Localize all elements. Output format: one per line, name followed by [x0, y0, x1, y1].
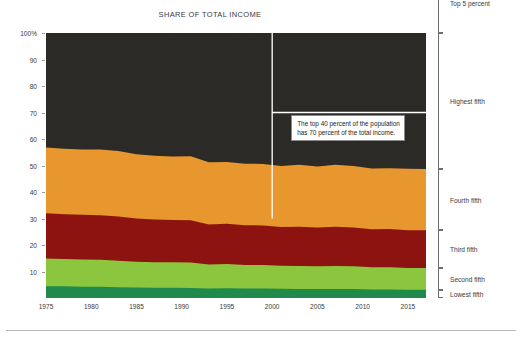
y-axis-tick-mark	[42, 113, 45, 114]
y-axis-tick-mark	[42, 86, 45, 87]
legend-bracket	[438, 0, 443, 33]
y-axis-tick-label: 50	[30, 162, 37, 169]
legend-label-fourth-fifth: Fourth fifth	[450, 196, 482, 203]
y-axis-tick-mark	[42, 272, 45, 273]
x-axis-tick-label: 2015	[401, 303, 416, 310]
callout-line-2: has 70 percent of the total income.	[297, 128, 400, 137]
y-axis-tick-label: 60	[30, 136, 37, 143]
y-axis: 100%908070605040302010	[0, 27, 42, 307]
legend-label-second-fifth: Second fifth	[450, 275, 485, 282]
chart-title: SHARE OF TOTAL INCOME	[0, 10, 420, 19]
x-axis-tick-label: 1975	[39, 303, 54, 310]
footer-divider	[6, 330, 516, 331]
y-axis-tick-label: 100%	[20, 30, 37, 37]
x-axis-tick-label: 1980	[84, 303, 99, 310]
x-axis-tick-label: 1985	[129, 303, 144, 310]
y-axis-tick-mark	[42, 33, 45, 34]
y-axis-tick-label: 70	[30, 109, 37, 116]
x-axis-tick-label: 1995	[220, 303, 235, 310]
x-axis-tick-label: 1990	[174, 303, 189, 310]
y-axis-tick-mark	[42, 166, 45, 167]
legend-bracket	[438, 268, 443, 290]
y-axis-tick-mark	[42, 192, 45, 193]
top-40-callout: The top 40 percent of the population has…	[291, 115, 405, 142]
legend-label-top-5-percent: Top 5 percent	[450, 0, 490, 7]
legend: Lowest fifthSecond fifthThird fifthFourt…	[432, 30, 522, 305]
legend-bracket	[438, 169, 443, 230]
legend-bracket	[438, 33, 443, 169]
x-axis-tick-label: 2005	[310, 303, 325, 310]
y-axis-tick-mark	[42, 60, 45, 61]
y-axis-tick-label: 40	[30, 189, 37, 196]
legend-label-highest-fifth: Highest fifth	[450, 97, 485, 104]
y-axis-tick-label: 30	[30, 215, 37, 222]
y-axis-tick-mark	[42, 139, 45, 140]
y-axis-tick-label: 20	[30, 242, 37, 249]
callout-line-1: The top 40 percent of the population	[297, 119, 400, 128]
legend-label-third-fifth: Third fifth	[450, 246, 477, 253]
x-axis-tick-label: 2000	[265, 303, 280, 310]
legend-bracket	[438, 290, 443, 298]
y-axis-tick-mark	[42, 219, 45, 220]
y-axis-tick-label: 90	[30, 56, 37, 63]
plot-area	[46, 33, 426, 298]
stacked-area-svg	[46, 33, 426, 298]
y-axis-tick-label: 80	[30, 83, 37, 90]
x-axis-tick-label: 2010	[355, 303, 370, 310]
x-axis: 197519801985199019952000200520102015	[0, 303, 522, 319]
y-axis-tick-mark	[42, 245, 45, 246]
legend-bracket	[438, 230, 443, 268]
income-share-chart: SHARE OF TOTAL INCOME 100%90807060504030…	[0, 0, 522, 345]
legend-label-lowest-fifth: Lowest fifth	[450, 290, 483, 297]
y-axis-tick-label: 10	[30, 268, 37, 275]
